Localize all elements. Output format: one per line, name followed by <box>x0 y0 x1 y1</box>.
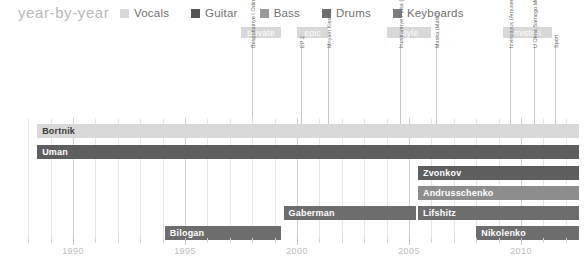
plot-area: BortnikUmanZvonkovAndrusschenkoLifshitzG… <box>0 118 587 238</box>
legend-label: Drums <box>336 7 371 19</box>
axis-tick <box>566 238 567 243</box>
legend-label: Vocals <box>134 7 169 19</box>
axis-tick <box>185 238 186 245</box>
chart-root: year-by-year VocalsGuitarBassDrumsKeyboa… <box>0 0 587 268</box>
axis-tick-label: 2000 <box>286 246 308 256</box>
bar-andrusschenko[interactable]: Andrusschenko <box>418 186 579 200</box>
song-label[interactable]: U Okna Samogo Mudrogo (It's What Men Are… <box>532 0 538 48</box>
axis-tick <box>163 238 164 243</box>
song-stem-line <box>400 44 401 127</box>
bar-bortnik[interactable]: Bortnik <box>37 124 579 138</box>
chart-header: year-by-year VocalsGuitarBassDrumsKeyboa… <box>0 0 587 26</box>
page-title: year-by-year <box>18 4 109 21</box>
song-stem-line <box>328 44 329 127</box>
axis-tick <box>499 238 500 243</box>
axis-tick <box>140 238 141 243</box>
axis-tick <box>28 238 29 243</box>
legend-item-vocals[interactable]: Vocals <box>120 7 169 19</box>
axis-tick <box>409 238 410 245</box>
song-stem-line <box>510 44 511 127</box>
axis-tick <box>543 238 544 243</box>
axis-tick <box>118 238 119 243</box>
bar-gaberman[interactable]: Gaberman <box>284 206 416 220</box>
bar-label: Zvonkov <box>418 168 461 178</box>
axis-tick <box>73 238 74 245</box>
bar-label: Gaberman <box>284 208 335 218</box>
bar-label: Bilogan <box>165 228 204 238</box>
axis-tick <box>51 238 52 243</box>
song-label[interactable]: Inostrannye Ptitsa (Foreign Land) <box>398 0 404 48</box>
axis-tick <box>275 238 276 243</box>
song-stem-line <box>252 44 253 127</box>
gridline <box>28 118 29 238</box>
axis-tick <box>476 238 477 243</box>
bar-zvonkov[interactable]: Zvonkov <box>418 166 579 180</box>
axis-tick <box>364 238 365 243</box>
bar-label: Uman <box>37 147 68 157</box>
legend-item-guitar[interactable]: Guitar <box>191 7 238 19</box>
song-label[interactable]: Bespokoinye i Odinokiye Lyudi (Restless … <box>250 0 256 48</box>
album-banner-private[interactable]: private <box>241 27 281 38</box>
axis-tick-label: 1995 <box>174 246 196 256</box>
song-label[interactable]: EP 2 <box>299 0 305 48</box>
bar-lifshitz[interactable]: Lifshitz <box>418 206 579 220</box>
axis-tick <box>521 238 522 245</box>
bar-uman[interactable]: Uman <box>37 145 579 159</box>
axis-tick <box>230 238 231 243</box>
bar-label: Nikolenko <box>476 228 526 238</box>
song-stem-line <box>534 44 535 127</box>
song-label[interactable]: Sport <box>553 0 559 48</box>
bar-label: Bortnik <box>37 126 75 136</box>
axis-tick <box>297 238 298 245</box>
bar-label: Lifshitz <box>418 208 456 218</box>
song-stem-line <box>555 44 556 127</box>
song-stem-line <box>301 44 302 127</box>
x-axis: 19901995200020052010 <box>0 238 587 268</box>
song-label[interactable]: Maska (Mask) <box>434 0 440 48</box>
legend-swatch-icon <box>260 9 269 18</box>
legend-label: Guitar <box>205 7 238 19</box>
bar-label: Andrusschenko <box>418 188 494 198</box>
song-label[interactable]: Izvinyayus (Amusement Park) <box>508 0 514 48</box>
album-banner-style[interactable]: style <box>387 27 432 38</box>
axis-tick <box>95 238 96 243</box>
axis-tick <box>454 238 455 243</box>
song-label[interactable]: Mnyam Kiss Me <box>326 0 332 48</box>
axis-tick-label: 2010 <box>510 246 532 256</box>
legend-swatch-icon <box>191 9 200 18</box>
axis-tick <box>319 238 320 243</box>
axis-tick <box>207 238 208 243</box>
song-stem-line <box>436 44 437 127</box>
axis-tick-label: 2005 <box>398 246 420 256</box>
axis-tick <box>252 238 253 243</box>
axis-tick <box>387 238 388 243</box>
axis-tick-label: 1990 <box>62 246 84 256</box>
axis-tick <box>431 238 432 243</box>
legend-swatch-icon <box>120 9 129 18</box>
legend-item-bass[interactable]: Bass <box>260 7 300 19</box>
legend-label: Bass <box>274 7 300 19</box>
axis-tick <box>342 238 343 243</box>
